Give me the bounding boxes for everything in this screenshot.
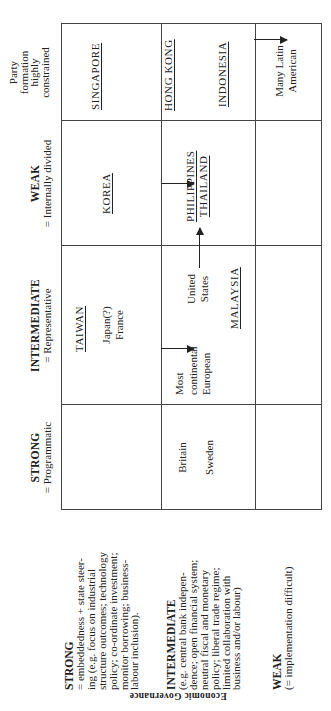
grid-line <box>61 23 322 24</box>
cell-japan-france: Japan(?) France <box>100 295 125 355</box>
arrow-korea-to-philippines <box>161 183 194 184</box>
cell-thailand: THAILAND <box>197 151 210 222</box>
grid-line <box>321 23 322 510</box>
row-label-line: policy; liberal trade regime; <box>210 515 221 690</box>
cell-sweden: Sweden <box>203 430 216 485</box>
cell-taiwan: TAIWAN <box>73 306 86 352</box>
cell-line: European <box>200 346 214 395</box>
cell-line: American <box>286 36 299 106</box>
economic-governance-axis-label: Economic Governance <box>118 690 238 702</box>
party-header-line: highly <box>29 24 40 121</box>
row-label-line: business and/or labour) <box>231 515 242 690</box>
grid-line <box>61 404 322 405</box>
grid-line <box>61 120 322 121</box>
row-label-line: (= implementation difficult) <box>283 515 294 690</box>
cell-line: States <box>198 265 211 313</box>
cell-malaysia: MALAYSIA <box>228 267 241 329</box>
column-header-intermediate: INTERMEDIATE = Representative <box>29 246 53 405</box>
party-header-line: Party <box>8 24 19 121</box>
cell-line: Many Latin <box>273 36 286 106</box>
grid-line <box>255 23 256 510</box>
column-header-strong-title: STRONG <box>29 405 41 510</box>
grid-line <box>61 23 62 510</box>
arrow-taiwan-to-european <box>161 348 194 349</box>
row-label-intermediate: INTERMEDIATE (e.g. central bank indepen-… <box>166 515 242 690</box>
cell-many-latin-american: Many Latin American <box>273 36 298 106</box>
cell-most-continental-european: Most continental European <box>173 346 214 395</box>
row-label-line: policy; co-ordinate investment; <box>108 515 119 690</box>
typology-diagram: Economic Governance STRONG = Programmati… <box>0 0 331 711</box>
cell-hong-kong: HONG KONG <box>162 39 175 111</box>
row-label-line: neutral fiscal and monetary <box>199 515 210 690</box>
row-label-weak: WEAK (= implementation difficult) <box>272 515 294 690</box>
cell-line: continental <box>187 346 201 395</box>
row-label-line: structure outcomes; technology <box>97 515 108 690</box>
cell-line: Japan(?) <box>100 295 113 355</box>
cell-indonesia: INDONESIA <box>216 42 229 107</box>
cell-united-states: United States <box>185 265 210 313</box>
cell-singapore: SINGAPORE <box>89 43 102 110</box>
party-header-line: constrained <box>40 24 51 121</box>
row-label-strong: STRONG = embeddedness + state steer- ing… <box>64 515 140 690</box>
column-header-strong-subtitle: = Programmatic <box>41 405 53 510</box>
grid-line <box>61 245 322 246</box>
arrow-indonesia-to-latin-america <box>254 39 287 40</box>
arrow-us-to-philippines <box>199 228 200 268</box>
cell-line: United <box>185 265 198 313</box>
cell-britain: Britain <box>176 430 189 485</box>
column-header-intermediate-subtitle: = Representative <box>41 246 53 405</box>
cell-line: France <box>113 295 126 355</box>
cell-korea: KOREA <box>100 173 113 214</box>
column-header-intermediate-title: INTERMEDIATE <box>29 246 41 405</box>
column-header-strong: STRONG = Programmatic <box>29 405 53 510</box>
row-label-line: labour inclusion). <box>129 515 140 690</box>
column-header-weak-title: WEAK <box>29 121 41 246</box>
column-header-party-constrained: Party formation highly constrained <box>8 24 50 121</box>
column-header-weak: WEAK = Internally divided <box>29 121 53 246</box>
column-header-weak-subtitle: = Internally divided <box>41 121 53 246</box>
grid-line <box>61 509 322 510</box>
cell-line: Most <box>173 346 187 395</box>
